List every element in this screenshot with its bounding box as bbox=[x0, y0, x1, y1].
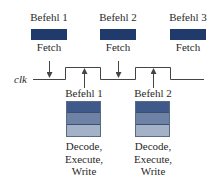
execute-band bbox=[67, 113, 100, 124]
stage-caption-line: Write bbox=[128, 165, 178, 178]
stage-caption-2: Decode, Execute, Write bbox=[128, 140, 178, 178]
stage-caption-line: Execute, bbox=[128, 153, 178, 166]
decode-band bbox=[67, 102, 100, 113]
stage-stack-1 bbox=[66, 101, 101, 137]
write-band bbox=[67, 125, 100, 136]
decode-band bbox=[136, 102, 169, 113]
stage-caption-line: Decode, bbox=[59, 140, 109, 153]
execute-instruction-label-1: Befehl 1 bbox=[59, 87, 109, 99]
write-band bbox=[136, 125, 169, 136]
stage-caption-1: Decode, Execute, Write bbox=[59, 140, 109, 178]
execute-band bbox=[136, 113, 169, 124]
stage-stack-2 bbox=[135, 101, 170, 137]
stage-caption-line: Write bbox=[59, 165, 109, 178]
stage-caption-line: Execute, bbox=[59, 153, 109, 166]
stage-caption-line: Decode, bbox=[128, 140, 178, 153]
execute-instruction-label-2: Befehl 2 bbox=[128, 87, 178, 99]
